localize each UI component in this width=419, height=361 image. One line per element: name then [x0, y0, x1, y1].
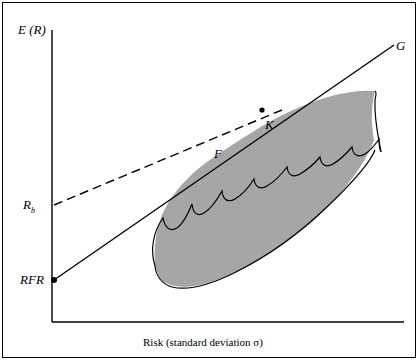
y-axis-label: E (R)	[18, 22, 46, 38]
chart-plot	[0, 0, 419, 361]
label-rb: Rb	[23, 197, 35, 215]
label-f: F	[214, 146, 222, 162]
point-rfr-marker	[51, 277, 57, 283]
label-g: G	[396, 38, 405, 54]
label-k: K	[265, 117, 274, 133]
x-axis-label: Risk (standard deviation σ)	[143, 336, 263, 348]
figure-container: E (R) Risk (standard deviation σ) G K F …	[0, 0, 419, 361]
label-rb-subscript: b	[31, 206, 35, 215]
label-rfr: RFR	[20, 272, 44, 288]
point-k-marker	[259, 107, 264, 112]
label-rb-main: R	[23, 197, 31, 212]
